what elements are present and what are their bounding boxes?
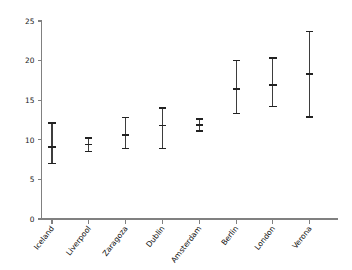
y-axis-tick-label: 15: [25, 96, 35, 105]
x-axis-tick-label: Dublin: [144, 224, 166, 249]
error-bar: [306, 31, 313, 117]
error-bar-chart: 0510152025 IcelandLiverpoolZaragozaDubli…: [0, 0, 352, 270]
y-axis-tick-label: 20: [25, 56, 35, 65]
x-axis-tick-label: Berlin: [220, 224, 241, 247]
chart-container: 0510152025 IcelandLiverpoolZaragozaDubli…: [0, 0, 352, 270]
x-axis-tick-label: Zaragoza: [101, 224, 130, 258]
x-axis-tick-label: London: [253, 224, 277, 252]
x-axis-tick-label: Amsterdam: [169, 224, 203, 264]
error-bar-series: [48, 31, 313, 163]
error-bar: [122, 118, 129, 149]
y-axis-tick-label: 10: [25, 136, 35, 145]
x-axis-tick-label: Liverpool: [64, 224, 93, 257]
y-axis: 0510152025: [25, 17, 41, 224]
x-axis-tick-label: Iceland: [32, 224, 56, 251]
y-axis-tick-label: 25: [25, 17, 35, 26]
error-bar: [233, 61, 240, 114]
error-bar: [196, 119, 203, 131]
error-bar: [85, 138, 92, 151]
error-bar: [159, 108, 166, 148]
y-axis-tick-label: 5: [30, 175, 35, 184]
x-axis-tick-label: Verona: [291, 224, 314, 250]
y-axis-tick-label: 0: [30, 215, 35, 224]
x-axis: IcelandLiverpoolZaragozaDublinAmsterdamB…: [32, 219, 338, 264]
error-bar: [269, 58, 276, 106]
error-bar: [48, 123, 55, 163]
